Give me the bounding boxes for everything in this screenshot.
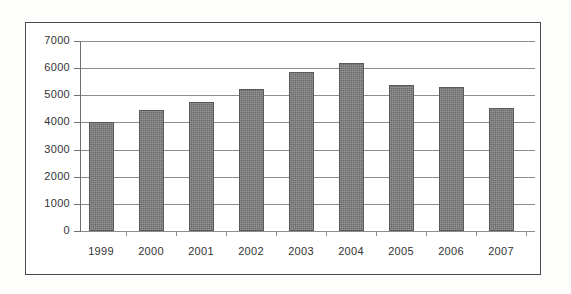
bar-2007 bbox=[489, 108, 514, 231]
y-axis-label-3000: 3000 bbox=[26, 144, 70, 155]
bar-1999 bbox=[89, 122, 114, 231]
x-tick-mark-5 bbox=[376, 231, 377, 236]
x-tick-mark-7 bbox=[476, 231, 477, 236]
y-axis-label-7000: 7000 bbox=[26, 35, 70, 46]
x-axis-label-1999: 1999 bbox=[78, 245, 124, 257]
y-tick-mark-2000 bbox=[74, 177, 81, 178]
bar-2001 bbox=[189, 102, 214, 231]
x-axis-label-2004: 2004 bbox=[328, 245, 374, 257]
gridline-zero-baseline bbox=[80, 231, 535, 232]
x-axis-label-2006: 2006 bbox=[428, 245, 474, 257]
y-tick-mark-4000 bbox=[74, 122, 81, 123]
y-tick-mark-3000 bbox=[74, 150, 81, 151]
bar-2005 bbox=[389, 85, 414, 231]
y-axis-label-4000: 4000 bbox=[26, 116, 70, 127]
y-tick-mark-0 bbox=[74, 231, 81, 232]
gridline-7000 bbox=[80, 41, 535, 42]
x-tick-mark-6 bbox=[426, 231, 427, 236]
bar-2003 bbox=[289, 72, 314, 231]
y-axis-label-2000: 2000 bbox=[26, 171, 70, 182]
x-tick-mark-4 bbox=[326, 231, 327, 236]
y-tick-mark-1000 bbox=[74, 204, 81, 205]
y-axis-label-0: 0 bbox=[26, 225, 70, 236]
x-axis-label-2000: 2000 bbox=[128, 245, 174, 257]
y-axis-label-1000: 1000 bbox=[26, 198, 70, 209]
x-axis-label-2002: 2002 bbox=[228, 245, 274, 257]
y-axis-label-6000: 6000 bbox=[26, 62, 70, 73]
bar-2002 bbox=[239, 89, 264, 231]
bar-2000 bbox=[139, 110, 164, 231]
x-axis-label-2001: 2001 bbox=[178, 245, 224, 257]
x-axis-label-2003: 2003 bbox=[278, 245, 324, 257]
x-axis-label-2007: 2007 bbox=[478, 245, 524, 257]
bar-2006 bbox=[439, 87, 464, 231]
plot-area: 7000 6000 5000 4000 3000 2000 1000 0 199… bbox=[26, 23, 542, 276]
x-axis-label-2005: 2005 bbox=[378, 245, 424, 257]
y-axis-line bbox=[80, 41, 81, 231]
x-tick-mark-0 bbox=[126, 231, 127, 236]
y-tick-mark-7000 bbox=[74, 41, 81, 42]
chart-frame: 7000 6000 5000 4000 3000 2000 1000 0 199… bbox=[25, 22, 541, 275]
x-tick-mark-3 bbox=[276, 231, 277, 236]
y-tick-mark-5000 bbox=[74, 95, 81, 96]
bar-2004 bbox=[339, 63, 364, 231]
x-tick-mark-8 bbox=[526, 231, 527, 236]
x-tick-mark-2 bbox=[226, 231, 227, 236]
x-tick-mark-1 bbox=[176, 231, 177, 236]
y-tick-mark-6000 bbox=[74, 68, 81, 69]
y-axis-label-5000: 5000 bbox=[26, 89, 70, 100]
gridline-6000 bbox=[80, 68, 535, 69]
